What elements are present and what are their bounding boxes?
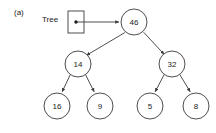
edge-right-to-rightleft bbox=[155, 75, 164, 92]
tree-node-16[interactable]: 16 bbox=[44, 93, 70, 119]
node-value: 16 bbox=[53, 102, 62, 111]
node-value: 9 bbox=[98, 102, 103, 111]
tree-node-46[interactable]: 46 bbox=[121, 9, 147, 35]
node-value: 46 bbox=[130, 18, 139, 27]
tree-node-14[interactable]: 14 bbox=[65, 51, 91, 77]
tree-node-32[interactable]: 32 bbox=[159, 51, 185, 77]
edge-root-to-left bbox=[87, 33, 125, 56]
edge-left-to-leftright bbox=[86, 75, 95, 92]
tree-node-9[interactable]: 9 bbox=[87, 93, 113, 119]
figure-panel: (a) Tree 46 14 bbox=[0, 0, 216, 133]
tree-node-8[interactable]: 8 bbox=[183, 93, 209, 119]
tree-node-5[interactable]: 5 bbox=[137, 93, 163, 119]
tree-diagram-svg: 46 14 32 16 9 5 8 bbox=[0, 0, 216, 133]
node-value: 32 bbox=[168, 60, 177, 69]
node-value: 14 bbox=[74, 60, 83, 69]
edge-left-to-leftleft bbox=[62, 75, 70, 92]
edge-right-to-rightright bbox=[180, 75, 190, 92]
edge-root-to-right bbox=[144, 32, 165, 54]
node-value: 5 bbox=[148, 102, 153, 111]
node-value: 8 bbox=[194, 102, 199, 111]
